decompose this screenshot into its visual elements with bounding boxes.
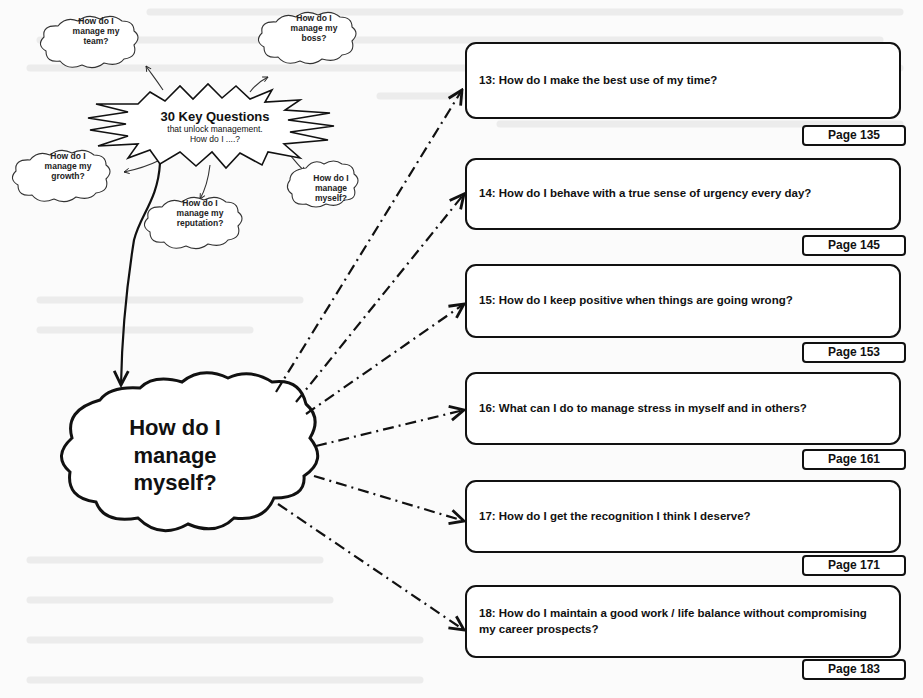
page-link-18[interactable]: Page 183 bbox=[802, 659, 906, 680]
cloud-boss-line-3: boss? bbox=[274, 34, 354, 44]
question-text: 16: What can I do to manage stress in my… bbox=[479, 401, 807, 417]
focus-line-2: manage bbox=[100, 442, 250, 470]
question-text: 17: How do I get the recognition I think… bbox=[479, 509, 751, 525]
question-box-16[interactable]: 16: What can I do to manage stress in my… bbox=[465, 372, 901, 445]
cloud-growth-line-3: growth? bbox=[28, 172, 108, 182]
question-text: 14: How do I behave with a true sense of… bbox=[479, 186, 811, 202]
focus-line-1: How do I bbox=[100, 414, 250, 442]
question-text: 13: How do I make the best use of my tim… bbox=[479, 73, 717, 89]
cloud-team: How do I manage my team? bbox=[56, 17, 136, 46]
main-arrow bbox=[121, 163, 160, 385]
question-text: 18: How do I maintain a good work / life… bbox=[479, 606, 885, 637]
cloud-boss: How do I manage my boss? bbox=[274, 14, 354, 43]
page-link-13[interactable]: Page 135 bbox=[802, 125, 906, 146]
cloud-myself-line-3: myself? bbox=[300, 194, 362, 204]
page-link-14[interactable]: Page 145 bbox=[802, 235, 906, 256]
focus-cloud: How do I manage myself? bbox=[100, 414, 250, 497]
question-box-14[interactable]: 14: How do I behave with a true sense of… bbox=[465, 158, 901, 230]
focus-line-3: myself? bbox=[100, 469, 250, 497]
page-link-17[interactable]: Page 171 bbox=[802, 555, 906, 576]
question-box-18[interactable]: 18: How do I maintain a good work / life… bbox=[465, 585, 901, 658]
starburst: 30 Key Questions that unlock management.… bbox=[140, 110, 290, 144]
burst-title: 30 Key Questions bbox=[140, 110, 290, 125]
cloud-reputation-line-3: reputation? bbox=[160, 219, 240, 229]
page-link-15[interactable]: Page 153 bbox=[802, 342, 906, 363]
cloud-myself-mini: How do I manage myself? bbox=[300, 174, 362, 203]
cloud-growth: How do I manage my growth? bbox=[28, 152, 108, 181]
question-text: 15: How do I keep positive when things a… bbox=[479, 293, 793, 309]
burst-prompt: How do I ....? bbox=[140, 135, 290, 145]
question-box-13[interactable]: 13: How do I make the best use of my tim… bbox=[465, 42, 901, 119]
cloud-team-line-3: team? bbox=[56, 37, 136, 47]
question-box-15[interactable]: 15: How do I keep positive when things a… bbox=[465, 264, 901, 338]
cloud-reputation: How do I manage my reputation? bbox=[160, 199, 240, 228]
question-box-17[interactable]: 17: How do I get the recognition I think… bbox=[465, 480, 901, 553]
page-link-16[interactable]: Page 161 bbox=[802, 449, 906, 470]
